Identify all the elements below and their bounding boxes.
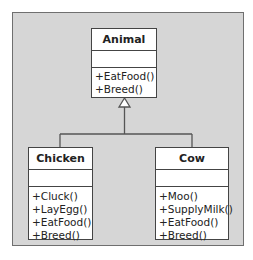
class-attributes	[156, 170, 228, 187]
class-name: Cow	[156, 148, 228, 170]
operation: +LayEgg()	[32, 203, 92, 216]
operation: +Cluck()	[32, 190, 92, 203]
class-name: Chicken	[29, 148, 92, 170]
class-operations: +EatFood() +Breed()	[92, 68, 156, 96]
operation: +Breed()	[32, 229, 92, 242]
operation: +SupplyMilk()	[159, 203, 228, 216]
operation: +EatFood()	[32, 216, 92, 229]
operation: +EatFood()	[159, 216, 228, 229]
class-chicken[interactable]: Chicken +Cluck() +LayEgg() +EatFood() +B…	[28, 147, 93, 240]
operation: +Breed()	[95, 83, 156, 96]
class-cow[interactable]: Cow +Moo() +SupplyMilk() +EatFood() +Bre…	[155, 147, 229, 240]
operation: +Breed()	[159, 229, 228, 242]
generalization-arrow-icon	[119, 98, 130, 107]
class-operations: +Cluck() +LayEgg() +EatFood() +Breed()	[29, 187, 92, 242]
class-name: Animal	[92, 29, 156, 51]
operation: +EatFood()	[95, 70, 156, 83]
class-operations: +Moo() +SupplyMilk() +EatFood() +Breed()	[156, 187, 228, 242]
class-attributes	[92, 51, 156, 68]
operation: +Moo()	[159, 190, 228, 203]
class-attributes	[29, 170, 92, 187]
class-animal[interactable]: Animal +EatFood() +Breed()	[91, 28, 157, 98]
